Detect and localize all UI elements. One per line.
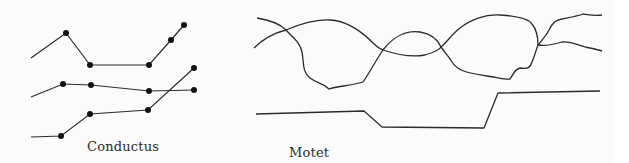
note-dot: [88, 82, 94, 88]
note-dot: [145, 107, 151, 113]
note-dot: [146, 88, 152, 94]
note-dot: [191, 87, 197, 93]
voice-top-line: [31, 25, 184, 65]
motet-diagram: [254, 14, 602, 128]
note-dot: [87, 62, 93, 68]
note-dot: [58, 133, 64, 139]
conductus-diagram: [31, 22, 197, 139]
page-edge: [615, 0, 629, 163]
note-dot: [87, 111, 93, 117]
note-dot: [146, 62, 152, 68]
tenor-line: [256, 91, 600, 128]
upper-voice-2-line: [254, 15, 602, 56]
motet-label: Motet: [289, 145, 329, 160]
note-dot: [63, 30, 69, 36]
upper-voice-1-line: [257, 14, 602, 89]
note-dot: [60, 81, 66, 87]
note-dot: [181, 22, 187, 28]
note-dot: [168, 37, 174, 43]
note-dot: [191, 65, 197, 71]
voice-bottom-line: [31, 68, 194, 137]
conductus-label: Conductus: [87, 139, 159, 154]
